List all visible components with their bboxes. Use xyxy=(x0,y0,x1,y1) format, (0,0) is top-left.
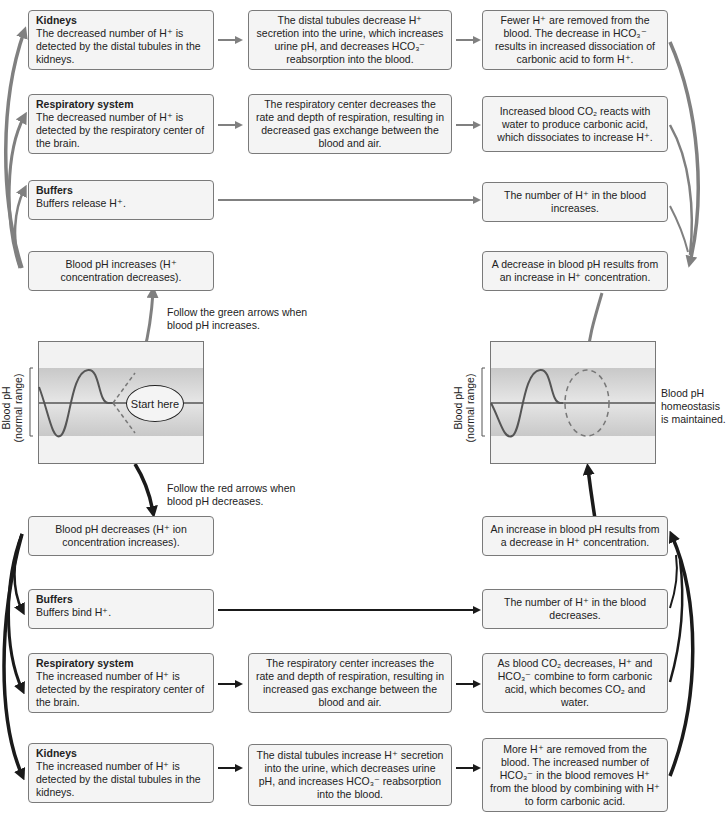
box-text: An increase in blood pH results from a d… xyxy=(490,523,660,549)
decrease-buffers-box: Buffers Buffers bind H⁺. xyxy=(28,589,214,629)
box-body: The increased number of H⁺ is detected b… xyxy=(36,670,206,709)
axis-label-line1: Blood pH xyxy=(452,373,464,443)
y-axis-label: Blood pH (normal range) xyxy=(452,373,476,443)
decrease-respiratory-response-box: The respiratory center increases the rat… xyxy=(248,653,452,713)
box-title: Kidneys xyxy=(36,747,206,760)
box-title: Respiratory system xyxy=(36,657,206,670)
decrease-respiratory-box: Respiratory system The increased number … xyxy=(28,653,214,713)
box-body: Buffers bind H⁺. xyxy=(36,606,206,619)
decrease-outcome-box: An increase in blood pH results from a d… xyxy=(482,516,668,556)
box-text: The respiratory center increases the rat… xyxy=(256,657,444,709)
box-text: Blood pH decreases (H⁺ ion concentration… xyxy=(36,523,206,549)
box-body: The increased number of H⁺ is detected b… xyxy=(36,760,206,799)
axis-label-line2: (normal range) xyxy=(464,373,476,443)
box-title: Buffers xyxy=(36,593,206,606)
box-text: As blood CO₂ decreases, H⁺ and HCO₃⁻ com… xyxy=(490,657,660,709)
box-text: The distal tubules increase H⁺ secretion… xyxy=(256,749,444,801)
red-arrow-instruction: Follow the red arrows when blood pH decr… xyxy=(167,482,317,508)
decrease-kidneys-response-box: The distal tubules increase H⁺ secretion… xyxy=(248,744,452,806)
decrease-trigger-box: Blood pH decreases (H⁺ ion concentration… xyxy=(28,516,214,556)
box-text: More H⁺ are removed from the blood. The … xyxy=(490,743,660,808)
homeostasis-label: Blood pH homeostasis is maintained. xyxy=(661,387,728,426)
box-text: The number of H⁺ in the blood decreases. xyxy=(490,596,660,622)
decrease-kidneys-box: Kidneys The increased number of H⁺ is de… xyxy=(28,743,214,803)
decrease-buffers-result-box: The number of H⁺ in the blood decreases. xyxy=(482,589,668,629)
decrease-respiratory-result-box: As blood CO₂ decreases, H⁺ and HCO₃⁻ com… xyxy=(482,653,668,713)
decrease-kidneys-result-box: More H⁺ are removed from the blood. The … xyxy=(482,738,668,812)
